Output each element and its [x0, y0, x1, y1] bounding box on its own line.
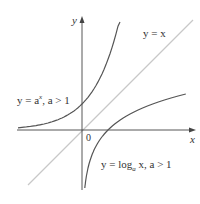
logarithmic-curve: [85, 94, 186, 188]
function-graph: y x 0 y = x y = ax, a > 1 y = loga x, a …: [0, 0, 200, 204]
y-axis-arrow-icon: [80, 16, 85, 23]
exponential-curve: [18, 22, 120, 128]
exp-label-prefix: y = a: [17, 94, 39, 106]
x-axis-label: x: [189, 133, 195, 145]
y-axis-label: y: [71, 14, 77, 26]
identity-line-label: y = x: [143, 27, 166, 39]
log-label-suffix: x, a > 1: [136, 158, 172, 170]
exponential-curve-label: y = ax, a > 1: [17, 93, 70, 106]
exp-label-suffix: , a > 1: [42, 94, 70, 106]
origin-label: 0: [86, 132, 91, 143]
log-label-prefix: y = log: [101, 158, 133, 170]
x-axis-arrow-icon: [189, 128, 196, 133]
logarithmic-curve-label: y = loga x, a > 1: [101, 158, 172, 173]
